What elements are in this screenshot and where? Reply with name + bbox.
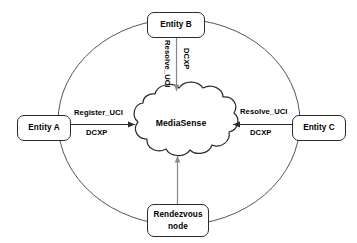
edge-entity-a-to-cloud (71, 122, 135, 128)
node-entity-a-label: Entity A (28, 122, 59, 133)
diagram-canvas: MediaSense Entity A Entity B Entity C Re… (0, 0, 357, 243)
edge-label-resolve-uci-entity-c: Resolve_UCI (240, 107, 288, 116)
node-rendezvous-label-line1: Rendezvous (153, 209, 202, 220)
cloud-label-mediasense: MediaSense (135, 118, 227, 128)
edge-label-dcxp-entity-c: DCXP (250, 128, 272, 137)
edge-label-register-uci: Register_UCI (74, 108, 123, 117)
edge-entity-c-to-cloud (233, 122, 292, 128)
node-rendezvous[interactable]: Rendezvous node (147, 204, 209, 237)
edge-label-resolve-uci-entity-b: Resolve_UCI (163, 40, 172, 88)
node-entity-c-label: Entity C (303, 122, 335, 133)
node-entity-b-label: Entity B (160, 19, 192, 30)
node-entity-c[interactable]: Entity C (292, 115, 346, 141)
node-rendezvous-label-line2: node (168, 221, 188, 232)
node-entity-a[interactable]: Entity A (17, 115, 71, 141)
edge-rendezvous-to-cloud (175, 156, 181, 204)
edge-label-dcxp-entity-b: DCXP (182, 48, 191, 70)
edge-entity-b-to-cloud (174, 38, 180, 91)
node-entity-b[interactable]: Entity B (147, 12, 205, 38)
edge-label-dcxp-entity-a: DCXP (86, 128, 108, 137)
